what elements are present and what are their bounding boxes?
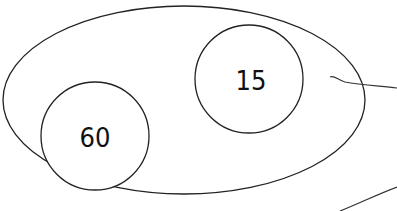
label-60: 60 [80,122,111,153]
venn-diagram: 60 15 [0,0,397,211]
label-15: 15 [236,65,267,96]
bottom-line [340,187,397,211]
